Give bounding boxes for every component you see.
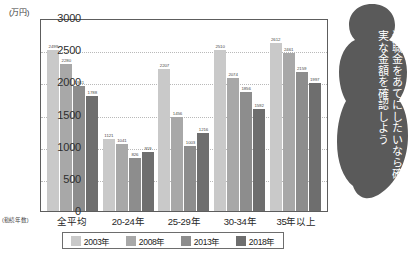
- y-axis-tick-label: 1500: [11, 109, 81, 121]
- legend-swatch: [181, 236, 191, 246]
- bar: [309, 83, 321, 211]
- bar-item: 2510: [214, 20, 226, 211]
- bar-item: 1041: [116, 20, 128, 211]
- bar-item: 2461: [283, 20, 295, 211]
- bar-group: 11211041826919: [101, 20, 157, 211]
- bar: [116, 144, 128, 211]
- bar-value-label: 1592: [254, 103, 263, 108]
- bar-value-label: 2159: [297, 66, 306, 71]
- chart-figure: (万円) 24992280194117881121104182691922071…: [0, 0, 414, 257]
- bar: [270, 43, 282, 211]
- plot-area: 2499228019411788112110418269192207145610…: [40, 19, 328, 212]
- legend-swatch: [71, 236, 81, 246]
- legend-label: 2003年: [84, 235, 110, 247]
- bar: [86, 96, 98, 211]
- bar-item: 2207: [158, 20, 170, 211]
- y-axis-tick-label: 1000: [11, 141, 81, 153]
- x-axis-category-label: 35年以上: [268, 214, 324, 230]
- bar-group: 2207145610031216: [156, 20, 212, 211]
- x-axis-category-label: 30-34年: [212, 214, 268, 230]
- legend-item[interactable]: 2008年: [126, 235, 165, 247]
- bar: [296, 72, 308, 211]
- y-axis-tick-label: 2500: [11, 44, 81, 56]
- x-axis-category-label: 25-29年: [156, 214, 212, 230]
- bar-item: 1003: [184, 20, 196, 211]
- bar-value-label: 1456: [173, 111, 182, 116]
- legend-item[interactable]: 2018年: [236, 235, 275, 247]
- bar-value-label: 2461: [284, 47, 293, 52]
- bar: [253, 109, 265, 211]
- bar-value-label: 2510: [215, 44, 224, 49]
- bar-item: 1997: [309, 20, 321, 211]
- y-axis-tick-label: 2000: [11, 76, 81, 88]
- speech-bubble-text: 退職金をあてにしたいなら確実な金額を確認しよう: [343, 30, 403, 190]
- legend-label: 2013年: [194, 235, 220, 247]
- bar-item: 1856: [240, 20, 252, 211]
- legend-item[interactable]: 2003年: [71, 235, 110, 247]
- x-axis-category-label: 20-24年: [100, 214, 156, 230]
- bar: [184, 146, 196, 211]
- bar-value-label: 826: [131, 152, 138, 157]
- x-axis-prefix-label: (勤続年数): [2, 216, 28, 224]
- bar-item: 2074: [227, 20, 239, 211]
- bar-item: 826: [129, 20, 141, 211]
- legend-swatch: [236, 236, 246, 246]
- bar-value-label: 1041: [117, 138, 126, 143]
- bar-item: 1121: [103, 20, 115, 211]
- legend-label: 2018年: [249, 235, 275, 247]
- y-axis-tick-label: 3000: [11, 12, 81, 24]
- bar-value-label: 2612: [271, 37, 280, 42]
- bar-item: 1216: [197, 20, 209, 211]
- legend-label: 2008年: [139, 235, 165, 247]
- bar-value-label: 919: [144, 146, 151, 151]
- bar-item: 919: [142, 20, 154, 211]
- bar-value-label: 1003: [186, 140, 195, 145]
- bar-value-label: 2074: [228, 72, 237, 77]
- bar-group: 2612246121591997: [267, 20, 323, 211]
- bar-value-label: 1856: [241, 86, 250, 91]
- bar: [129, 158, 141, 211]
- bar-groups: 2499228019411788112110418269192207145610…: [41, 20, 327, 211]
- bar-value-label: 1788: [88, 90, 97, 95]
- bar-group: 2510207418561592: [212, 20, 268, 211]
- bar: [171, 117, 183, 211]
- x-axis-category-label: 全平均: [44, 214, 100, 230]
- bar: [158, 69, 170, 211]
- bar-value-label: 2280: [62, 58, 71, 63]
- bar: [227, 78, 239, 211]
- bar: [197, 133, 209, 211]
- speech-bubble: 退職金をあてにしたいなら確実な金額を確認しよう: [333, 2, 411, 200]
- bar-value-label: 2207: [160, 63, 169, 68]
- y-axis-tick-label: 500: [11, 173, 81, 185]
- bar: [47, 50, 59, 211]
- bar-item: 1456: [171, 20, 183, 211]
- x-axis-categories: 全平均20-24年25-29年30-34年35年以上: [40, 214, 328, 230]
- bar-value-label: 1121: [104, 133, 113, 138]
- bar-value-label: 1997: [310, 77, 319, 82]
- bar: [240, 92, 252, 211]
- legend-item[interactable]: 2013年: [181, 235, 220, 247]
- chart-legend: 2003年2008年2013年2018年: [62, 232, 284, 249]
- bar-item: 2159: [296, 20, 308, 211]
- bar: [142, 152, 154, 211]
- bar: [214, 50, 226, 211]
- bar-item: 1592: [253, 20, 265, 211]
- bar: [283, 53, 295, 211]
- bar-value-label: 1216: [199, 127, 208, 132]
- legend-swatch: [126, 236, 136, 246]
- bar-item: 2612: [270, 20, 282, 211]
- bar-item: 1788: [86, 20, 98, 211]
- bar: [103, 139, 115, 211]
